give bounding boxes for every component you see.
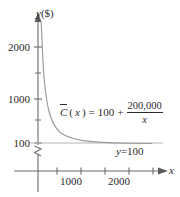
- x-tick-label-2000: 2000: [103, 176, 135, 187]
- y-tick-label-2000: 2000: [2, 42, 30, 53]
- asymptote-annotation: y=100: [116, 146, 144, 157]
- equation-fraction: 200,000 x: [127, 100, 163, 125]
- equation-close-paren: ): [82, 107, 86, 118]
- equation-constant: 100: [98, 107, 115, 118]
- curve-equation-annotation: C(x) = 100 + 200,000 x: [60, 100, 163, 125]
- equation-argument: x: [75, 107, 80, 118]
- x-axis: [14, 168, 168, 175]
- equation-numerator: 200,000: [127, 100, 163, 112]
- macron-bar-icon: [60, 104, 67, 105]
- y-tick-label-1000: 1000: [2, 94, 30, 105]
- asymptote-value: 100: [127, 145, 144, 157]
- equation-denominator: x: [141, 113, 148, 125]
- average-cost-function-graph: y($) x 2000 1000 100 1000 2000 C(x) = 10…: [0, 0, 180, 197]
- equation-function-name: C: [60, 107, 67, 118]
- x-axis-label: x: [169, 165, 174, 176]
- average-cost-curve: [41, 22, 152, 144]
- y-axis-label-unit: ($): [41, 7, 54, 19]
- equation-plus: +: [116, 107, 124, 118]
- y-axis: [35, 12, 42, 192]
- equation-open-paren: (: [69, 107, 73, 118]
- equation-equals: =: [88, 107, 96, 118]
- y-axis-label: y($): [36, 8, 54, 19]
- x-axis-arrowhead: [158, 168, 168, 175]
- x-tick-label-1000: 1000: [55, 176, 87, 187]
- y-tick-label-100: 100: [2, 138, 30, 149]
- y-axis-break-mark: [35, 146, 42, 156]
